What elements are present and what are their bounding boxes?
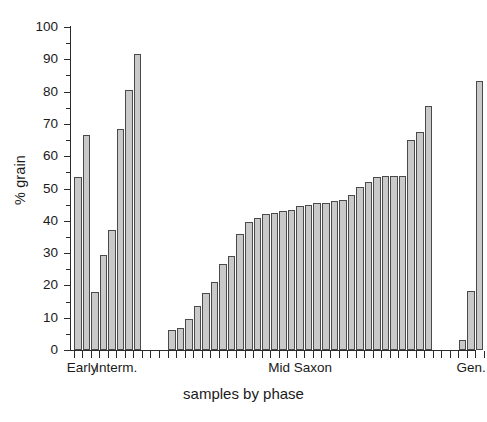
y-axis-tick-label: 60	[28, 149, 58, 163]
bar	[211, 282, 219, 350]
bar	[202, 293, 210, 350]
y-axis-tick-label: 40	[28, 214, 58, 228]
x-axis-tick	[159, 351, 160, 358]
x-axis-tick	[279, 351, 280, 358]
x-axis-group-label: Interm.	[95, 360, 137, 375]
x-axis-tick	[296, 351, 297, 358]
x-axis-tick	[142, 351, 143, 358]
x-axis-tick	[125, 351, 126, 358]
x-axis-tick	[450, 351, 451, 358]
bar	[194, 306, 202, 350]
x-axis-tick	[356, 351, 357, 358]
x-axis-group-label: Gen.	[456, 360, 485, 375]
x-axis-tick	[390, 351, 391, 358]
x-axis-tick	[133, 351, 134, 358]
x-axis-tick	[91, 351, 92, 358]
bar	[271, 213, 279, 350]
x-axis-tick	[287, 351, 288, 358]
x-axis-tick	[475, 351, 476, 358]
bar	[125, 90, 133, 350]
x-axis-tick	[219, 351, 220, 358]
x-axis-tick	[150, 351, 151, 358]
x-axis-tick	[236, 351, 237, 358]
x-axis-tick	[313, 351, 314, 358]
x-axis-tick	[210, 351, 211, 358]
x-axis-tick	[99, 351, 100, 358]
bar	[348, 195, 356, 350]
y-axis-tick	[64, 92, 70, 93]
x-axis-tick	[193, 351, 194, 358]
y-axis-tick-label: 80	[28, 85, 58, 99]
bar	[399, 176, 407, 350]
bar	[467, 291, 475, 350]
x-axis-tick	[347, 351, 348, 358]
x-axis-tick	[270, 351, 271, 358]
x-axis-tick	[262, 351, 263, 358]
y-axis-tick	[64, 221, 70, 222]
x-axis-tick	[253, 351, 254, 358]
bar	[254, 218, 262, 350]
bar	[331, 201, 339, 350]
bar	[177, 328, 185, 350]
bar	[322, 203, 330, 350]
y-axis-tick-label: 10	[28, 311, 58, 325]
y-axis-minor-tick	[66, 237, 70, 238]
x-axis-tick	[202, 351, 203, 358]
x-axis-title: samples by phase	[0, 385, 487, 402]
bar	[356, 187, 364, 350]
y-axis-minor-tick	[66, 334, 70, 335]
y-axis-tick	[64, 59, 70, 60]
x-axis-tick	[364, 351, 365, 358]
x-axis-tick	[227, 351, 228, 358]
x-axis-tick	[116, 351, 117, 358]
bar	[108, 230, 116, 350]
bar	[382, 176, 390, 350]
x-axis-tick	[416, 351, 417, 358]
y-axis-tick-label: 90	[28, 53, 58, 67]
x-axis-tick	[108, 351, 109, 358]
bar	[245, 222, 253, 350]
y-axis-tick	[64, 189, 70, 190]
x-axis-tick	[484, 351, 485, 358]
bar	[117, 129, 125, 350]
bar	[74, 177, 82, 350]
y-axis-tick	[64, 124, 70, 125]
y-axis-title-text: % grain	[12, 155, 28, 205]
x-axis-tick	[407, 351, 408, 358]
y-axis-tick-label: 0	[28, 343, 58, 357]
bar	[373, 177, 381, 350]
x-axis-tick	[185, 351, 186, 358]
bar	[305, 205, 313, 350]
y-axis-tick	[64, 156, 70, 157]
y-axis-tick	[64, 318, 70, 319]
bar	[459, 340, 467, 350]
x-axis-tick	[458, 351, 459, 358]
y-axis-tick-label: 70	[28, 117, 58, 131]
x-axis-tick	[373, 351, 374, 358]
x-axis-tick	[168, 351, 169, 358]
x-axis-tick	[441, 351, 442, 358]
x-axis-tick	[176, 351, 177, 358]
x-axis-tick	[467, 351, 468, 358]
bar	[279, 211, 287, 350]
y-axis-line	[70, 26, 71, 351]
x-axis-tick	[321, 351, 322, 358]
bar	[219, 264, 227, 350]
bar	[425, 106, 433, 350]
bar	[134, 54, 142, 350]
y-axis-minor-tick	[66, 205, 70, 206]
y-axis-tick-label: 100	[28, 20, 58, 34]
bar	[91, 292, 99, 350]
x-axis-tick	[398, 351, 399, 358]
bar	[236, 234, 244, 350]
x-axis-tick	[424, 351, 425, 358]
y-axis-minor-tick	[66, 43, 70, 44]
bar	[407, 140, 415, 350]
y-axis-tick-label: 50	[28, 182, 58, 196]
y-axis-tick-label: 30	[28, 246, 58, 260]
x-axis-tick	[339, 351, 340, 358]
x-axis-tick	[381, 351, 382, 358]
x-axis-tick	[74, 351, 75, 358]
y-axis-tick-label: 20	[28, 279, 58, 293]
x-axis-group-label: Mid Saxon	[268, 360, 332, 375]
